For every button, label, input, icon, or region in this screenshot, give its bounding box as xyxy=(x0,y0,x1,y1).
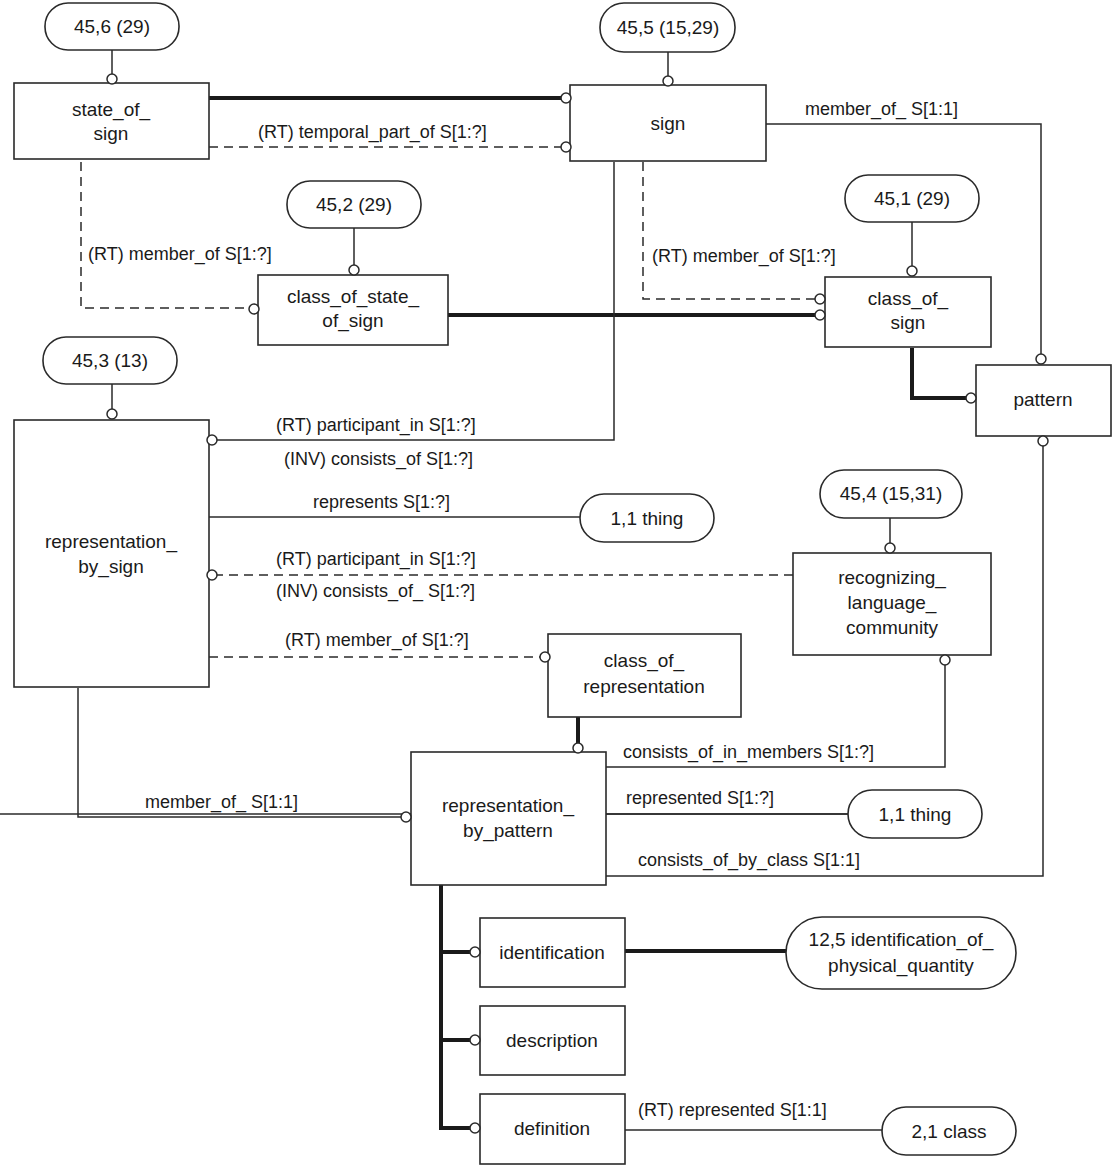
page-ref-label: 45,2 (29) xyxy=(316,194,392,215)
relationship-label: consists_of_by_class S[1:1] xyxy=(638,850,860,871)
endpoint-circle-icon xyxy=(885,543,895,553)
state-member-of-line xyxy=(81,162,250,308)
relationship-label: (RT) participant_in S[1:?] xyxy=(276,415,476,436)
entity-class-of-representation[interactable]: class_of_ representation xyxy=(548,634,741,717)
endpoint-circle-icon xyxy=(207,570,217,580)
relationship-label: represents S[1:?] xyxy=(313,492,450,512)
endpoint-circle-icon xyxy=(249,304,259,314)
page-ref-label: physical_quantity xyxy=(828,955,974,977)
page-ref-label: 45,4 (15,31) xyxy=(840,483,942,504)
entity-label: sign xyxy=(891,312,926,333)
entity-recognizing-language-community[interactable]: recognizing_ language_ community xyxy=(793,553,991,655)
entity-representation-by-pattern[interactable]: representation_ by_pattern xyxy=(411,752,606,885)
endpoint-circle-icon xyxy=(1036,354,1046,364)
relationship-label: (RT) temporal_part_of S[1:?] xyxy=(258,122,487,143)
page-ref-label: 12,5 identification_of_ xyxy=(809,929,994,951)
entity-label: class_of_ xyxy=(868,288,949,310)
endpoint-circle-icon xyxy=(540,652,550,662)
page-ref-45-1[interactable]: 45,1 (29) xyxy=(845,175,979,222)
page-ref-45-2[interactable]: 45,2 (29) xyxy=(287,181,421,228)
relationship-label: (INV) consists_of S[1:?] xyxy=(284,449,473,470)
endpoint-circle-icon xyxy=(470,1035,480,1045)
endpoint-circle-icon xyxy=(561,142,571,152)
entity-label: representation_ xyxy=(442,795,574,817)
page-ref-label: 45,1 (29) xyxy=(874,188,950,209)
entity-identification[interactable]: identification xyxy=(480,918,625,987)
page-ref-12-5[interactable]: 12,5 identification_of_ physical_quantit… xyxy=(786,917,1016,989)
entity-label: language_ xyxy=(848,592,937,614)
page-ref-thing-1[interactable]: 1,1 thing xyxy=(580,494,714,542)
endpoint-circle-icon xyxy=(561,93,571,103)
page-ref-2-1[interactable]: 2,1 class xyxy=(882,1107,1016,1155)
relationship-label: member_of_ S[1:1] xyxy=(145,792,298,813)
endpoint-circle-icon xyxy=(207,435,217,445)
endpoint-circle-icon xyxy=(107,409,117,419)
entity-representation-by-sign[interactable]: representation_ by_sign xyxy=(14,420,209,687)
endpoint-circle-icon xyxy=(470,1123,480,1133)
endpoint-circle-icon xyxy=(1038,436,1048,446)
endpoint-circle-icon xyxy=(815,310,825,320)
entity-label: description xyxy=(506,1030,598,1051)
entity-label: sign xyxy=(651,113,686,134)
endpoint-circle-icon xyxy=(940,655,950,665)
endpoint-circle-icon xyxy=(907,266,917,276)
subtype-line xyxy=(912,348,968,398)
entity-label: representation xyxy=(583,676,704,697)
entity-label: community xyxy=(846,617,938,638)
page-ref-45-4[interactable]: 45,4 (15,31) xyxy=(820,470,962,518)
sign-class-member-of-line xyxy=(643,162,817,299)
page-ref-label: 45,3 (13) xyxy=(72,350,148,371)
relationship-label: consists_of_in_members S[1:?] xyxy=(623,742,874,763)
relationship-label: (RT) member_of S[1:?] xyxy=(88,244,272,265)
entity-class-of-state-of-sign[interactable]: class_of_state_ of_sign xyxy=(258,275,448,345)
relationship-label: represented S[1:?] xyxy=(626,788,774,808)
entity-label: recognizing_ xyxy=(838,567,946,589)
entity-label: representation_ xyxy=(45,531,177,553)
endpoint-circle-icon xyxy=(815,294,825,304)
entity-label: by_pattern xyxy=(463,820,553,842)
relationship-label: (RT) participant_in S[1:?] xyxy=(276,549,476,570)
endpoint-circle-icon xyxy=(573,743,583,753)
endpoint-circle-icon xyxy=(966,393,976,403)
relationship-label: (INV) consists_of_ S[1:?] xyxy=(276,581,475,602)
relationship-label: (RT) member_of S[1:?] xyxy=(652,246,836,267)
entity-pattern[interactable]: pattern xyxy=(976,365,1111,436)
endpoint-circle-icon xyxy=(107,74,117,84)
relationship-label: (RT) member_of S[1:?] xyxy=(285,630,469,651)
endpoint-circle-icon xyxy=(663,76,673,86)
page-ref-label: 1,1 thing xyxy=(611,508,684,529)
entity-label: state_of_ xyxy=(72,99,151,121)
page-ref-label: 45,5 (15,29) xyxy=(617,17,719,38)
page-ref-label: 45,6 (29) xyxy=(74,16,150,37)
entity-label: identification xyxy=(499,942,605,963)
express-g-diagram: state_of_ sign sign class_of_state_ of_s… xyxy=(0,0,1112,1170)
relationship-label: member_of_ S[1:1] xyxy=(805,99,958,120)
entity-label: pattern xyxy=(1013,389,1072,410)
entity-state-of-sign[interactable]: state_of_ sign xyxy=(14,83,209,159)
page-ref-label: 1,1 thing xyxy=(879,804,952,825)
endpoint-circle-icon xyxy=(401,812,411,822)
entity-label: class_of_ xyxy=(604,650,685,672)
page-ref-45-5[interactable]: 45,5 (15,29) xyxy=(600,3,735,52)
entity-sign[interactable]: sign xyxy=(570,85,766,161)
endpoint-circle-icon xyxy=(470,947,480,957)
entity-label: definition xyxy=(514,1118,590,1139)
relationship-label: (RT) represented S[1:1] xyxy=(638,1100,827,1120)
entity-label: sign xyxy=(94,123,129,144)
entity-label: class_of_state_ xyxy=(287,286,419,308)
page-ref-45-6[interactable]: 45,6 (29) xyxy=(45,3,179,50)
endpoint-circle-icon xyxy=(349,265,359,275)
page-ref-thing-2[interactable]: 1,1 thing xyxy=(848,790,982,838)
entity-label: of_sign xyxy=(322,310,383,332)
entity-label: by_sign xyxy=(78,556,144,578)
entity-definition[interactable]: definition xyxy=(480,1094,625,1164)
page-ref-label: 2,1 class xyxy=(912,1121,987,1142)
entity-class-of-sign[interactable]: class_of_ sign xyxy=(825,277,991,347)
entity-description[interactable]: description xyxy=(480,1006,625,1075)
page-ref-45-3[interactable]: 45,3 (13) xyxy=(43,337,177,384)
